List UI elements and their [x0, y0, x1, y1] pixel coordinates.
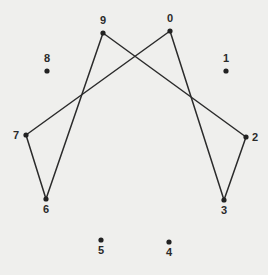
edge-9-2: [103, 33, 246, 137]
point-label: 7: [13, 129, 19, 141]
dot-marker: [44, 68, 49, 73]
point-2: 2: [243, 131, 258, 143]
edge-2-3: [224, 137, 246, 200]
dot-marker: [223, 68, 228, 73]
dot-marker: [167, 28, 172, 33]
point-6: 6: [43, 196, 49, 215]
point-label: 2: [252, 131, 258, 143]
point-label: 6: [43, 203, 49, 215]
point-label: 9: [100, 14, 106, 26]
dot-marker: [166, 239, 171, 244]
dot-marker: [98, 237, 103, 242]
edge-6-9: [46, 33, 103, 199]
point-label: 0: [167, 12, 173, 24]
dot-diagram: 0123456789: [0, 0, 268, 275]
dot-marker: [243, 134, 248, 139]
point-7: 7: [13, 129, 29, 141]
point-1: 1: [223, 52, 229, 74]
point-9: 9: [100, 14, 106, 36]
point-0: 0: [167, 12, 173, 34]
point-4: 4: [166, 239, 173, 258]
point-5: 5: [98, 237, 104, 256]
point-label: 1: [223, 52, 229, 64]
dot-marker: [221, 197, 226, 202]
point-3: 3: [221, 197, 227, 216]
point-label: 4: [166, 246, 173, 258]
point-label: 8: [44, 52, 50, 64]
edges-group: [26, 31, 246, 200]
point-label: 5: [98, 244, 104, 256]
dot-marker: [23, 132, 28, 137]
dot-marker: [43, 196, 48, 201]
point-8: 8: [44, 52, 50, 74]
dot-marker: [100, 30, 105, 35]
points-group: 0123456789: [13, 12, 258, 258]
edge-7-6: [26, 135, 46, 199]
point-label: 3: [221, 204, 227, 216]
